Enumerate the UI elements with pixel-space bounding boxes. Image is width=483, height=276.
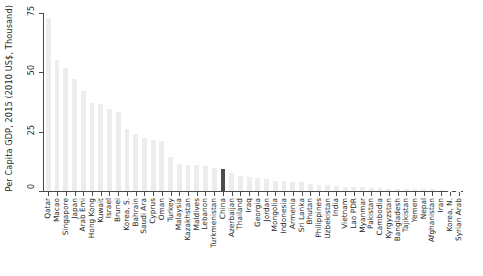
x-tick-label: Hong Kong xyxy=(88,198,95,238)
bar-rect xyxy=(194,165,199,191)
bar-rect xyxy=(168,157,173,191)
bar-korea-n xyxy=(448,13,453,191)
bar-cyprus xyxy=(151,13,156,191)
x-tick-label: Philippines xyxy=(315,198,322,238)
bar-rect xyxy=(421,189,426,191)
bar-korea-s xyxy=(125,13,130,191)
bar-brunei xyxy=(116,13,121,191)
bar-rect xyxy=(238,176,243,191)
x-tick-label: Bhutan xyxy=(306,198,313,225)
x-tick-mark xyxy=(432,192,433,196)
x-tick-mark xyxy=(214,192,215,196)
y-tick-label: 0 xyxy=(28,184,36,189)
x-tick-mark xyxy=(275,192,276,196)
bar-rect xyxy=(430,189,435,191)
bar-rect xyxy=(46,18,51,191)
x-tick-mark xyxy=(66,192,67,196)
bar-rect xyxy=(229,173,234,192)
bar-rect xyxy=(360,187,365,191)
bar-rect xyxy=(308,184,313,191)
x-tick-mark xyxy=(450,192,451,196)
x-tick-mark xyxy=(92,192,93,196)
bar-iraq xyxy=(247,13,252,191)
bar-rect xyxy=(299,182,304,191)
bar-saudi-ara xyxy=(142,13,147,191)
bar-rect xyxy=(413,189,418,191)
bar-thailand xyxy=(238,13,243,191)
bar-rect xyxy=(186,165,191,191)
x-tick-mark xyxy=(258,192,259,196)
x-tick-mark xyxy=(127,192,128,196)
bar-kyrgyzstan xyxy=(386,13,391,191)
bar-maldives xyxy=(194,13,199,191)
bar-syrian-arab xyxy=(456,13,461,191)
x-tick-mark xyxy=(75,192,76,196)
x-tick-mark xyxy=(354,192,355,196)
x-tick-mark xyxy=(310,192,311,196)
x-tick-label: Iran xyxy=(437,198,444,212)
x-tick-mark xyxy=(240,192,241,196)
bar-singapore xyxy=(63,13,68,191)
x-tick-label: Thailand xyxy=(236,198,243,230)
x-tick-mark xyxy=(83,192,84,196)
bar-rect xyxy=(221,169,226,191)
bar-rect xyxy=(116,112,121,192)
bar-macao xyxy=(55,13,60,191)
bar-rect xyxy=(334,186,339,191)
bar-rect xyxy=(133,134,138,191)
x-tick-mark xyxy=(406,192,407,196)
x-tick-label: Israel xyxy=(105,198,112,218)
x-tick-label: Cambodia xyxy=(376,198,383,235)
bar-rect xyxy=(247,177,252,191)
bar-japan xyxy=(72,13,77,191)
bar-israel xyxy=(107,13,112,191)
bar-bhutan xyxy=(308,13,313,191)
bar-rect xyxy=(72,79,77,191)
x-tick-label: Kyrgyzstan xyxy=(385,198,392,239)
bar-yemen xyxy=(413,13,418,191)
bar-rect xyxy=(107,109,112,191)
bar-malaysia xyxy=(177,13,182,191)
x-tick-mark xyxy=(380,192,381,196)
y-axis-title: Per Capita GDP, 2015 (2010 US$, Thousand… xyxy=(4,5,14,192)
x-tick-mark xyxy=(415,192,416,196)
x-tick-label: Turkmenistan xyxy=(210,198,217,248)
x-tick-label: Sri Lanka xyxy=(298,198,305,232)
x-tick-label: India xyxy=(332,198,339,216)
bar-rect xyxy=(212,168,217,191)
bar-afghanistan xyxy=(430,13,435,191)
bar-india xyxy=(334,13,339,191)
bar-rect xyxy=(273,181,278,191)
x-tick-label: Georgia xyxy=(254,198,261,227)
x-tick-label: Japan xyxy=(71,198,78,219)
x-tick-label: Macao xyxy=(53,198,60,222)
x-tick-mark xyxy=(319,192,320,196)
x-tick-label: Lao PDR xyxy=(350,198,357,229)
bar-rect xyxy=(351,187,356,191)
bar-uzbekistan xyxy=(325,13,330,191)
x-tick-label: Malaysia xyxy=(175,198,182,230)
x-tick-label: Korea, S. xyxy=(123,198,130,231)
x-tick-mark xyxy=(232,192,233,196)
x-tick-mark xyxy=(197,192,198,196)
x-tick-label: Saudi Ara xyxy=(140,198,147,234)
x-tick-label: Azerbaijan xyxy=(228,198,235,237)
x-tick-mark xyxy=(336,192,337,196)
x-tick-mark xyxy=(57,192,58,196)
bar-rect xyxy=(439,190,444,191)
bar-indonesia xyxy=(282,13,287,191)
bar-rect xyxy=(177,164,182,191)
bar-rect xyxy=(325,185,330,191)
bar-qatar xyxy=(46,13,51,191)
x-tick-mark xyxy=(389,192,390,196)
plot-area xyxy=(44,13,463,191)
bar-rect xyxy=(142,138,147,191)
bar-turkmenistan xyxy=(212,13,217,191)
x-tick-label: Pakistan xyxy=(367,198,374,229)
bar-rect xyxy=(290,182,295,191)
bar-vietnam xyxy=(343,13,348,191)
x-tick-label: Bangladesh xyxy=(394,198,401,241)
x-tick-mark xyxy=(284,192,285,196)
x-tick-mark xyxy=(118,192,119,196)
bar-rect xyxy=(317,185,322,191)
